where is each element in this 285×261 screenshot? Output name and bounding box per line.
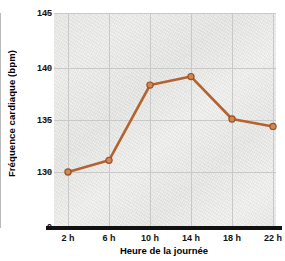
y-axis-title: Fréquence cardiaque (bpm) (0, 0, 22, 228)
plot-left-edge (0, 13, 1, 228)
y-tick-mark-130 (46, 172, 51, 173)
data-point (106, 157, 112, 163)
x-tick-label-10h: 10 h (130, 233, 170, 243)
data-series-line (54, 13, 276, 228)
x-axis-line (46, 226, 282, 230)
data-point (188, 74, 194, 80)
y-tick-mark-145 (46, 13, 51, 14)
y-tick-mark-140 (46, 68, 51, 69)
x-tick-label-14h: 14 h (171, 233, 211, 243)
x-tick-label-18h: 18 h (212, 233, 252, 243)
y-tick-mark-135 (46, 120, 51, 121)
x-axis-title: Heure de la journée (46, 245, 282, 256)
data-point (65, 169, 71, 175)
x-tick-label-2h: 2 h (48, 233, 88, 243)
line-chart-figure: Fréquence cardiaque (bpm) 145 140 135 13… (0, 0, 285, 261)
data-point (147, 82, 153, 88)
data-point (270, 123, 276, 129)
series-markers (65, 74, 276, 176)
data-point (229, 116, 235, 122)
x-tick-label-22h: 22 h (253, 233, 285, 243)
plot-area (54, 13, 276, 228)
x-tick-label-6h: 6 h (89, 233, 129, 243)
series-polyline (68, 77, 273, 172)
